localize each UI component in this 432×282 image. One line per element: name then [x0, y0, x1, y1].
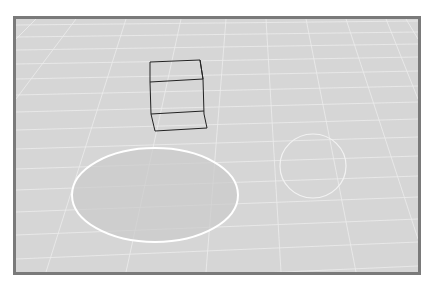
wireframe-cube[interactable]: [150, 60, 207, 131]
3d-viewport[interactable]: [13, 16, 421, 275]
grid-floor: [16, 19, 418, 272]
circle-outline-shape[interactable]: [280, 134, 346, 198]
ellipse-shape[interactable]: [72, 148, 238, 242]
scene-canvas[interactable]: [16, 19, 418, 272]
